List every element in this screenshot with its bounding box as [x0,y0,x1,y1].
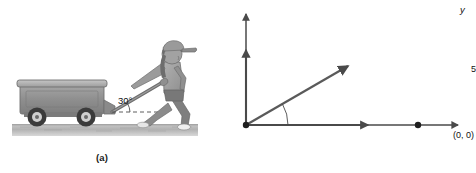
y-axis-label: y [460,5,465,15]
angle-arc-b [282,104,288,125]
point-100-0 [415,122,421,128]
physics-figure: 30° (a) [0,0,476,173]
force-vector-F [246,66,348,125]
wagon [17,80,115,127]
panel-b-vector-diagram: y x F 50(sin 30°)j 50 30° 50(cos 30°)i (… [222,0,476,173]
y-component-label-text: 50(sin 30°) [471,64,476,74]
origin-point [243,122,249,128]
caption-a: (a) [96,152,108,163]
child-pulling-wagon [131,41,197,130]
angle-label-a: 30° [118,96,132,106]
panel-b-drawing [222,0,476,173]
panel-a-illustration: 30° (a) [0,0,230,173]
panel-a-drawing [0,0,230,173]
wagon-wheel-rear [28,108,47,127]
y-component-label: 50(sin 30°)j [471,65,476,74]
wagon-wheel-front [77,108,96,127]
origin-coordinate-label: (0, 0) [453,131,474,140]
